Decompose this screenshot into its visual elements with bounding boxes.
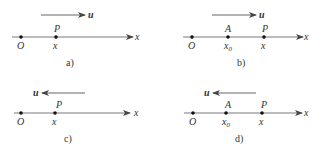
point-p <box>54 35 58 39</box>
panel-caption: d) <box>235 133 243 145</box>
panel-a: u x O P x a) <box>12 9 140 69</box>
origin-label: O <box>188 40 195 51</box>
point-a-coord: x0 <box>221 116 230 129</box>
velocity-label: u <box>204 87 210 98</box>
point-p-label: P <box>55 99 62 110</box>
point-a-label: A <box>224 23 232 34</box>
point-a-label: A <box>224 99 232 110</box>
point-p-label: P <box>261 23 268 34</box>
origin-label: O <box>189 116 196 127</box>
axis-label: x <box>133 107 139 118</box>
point-p-label: P <box>260 99 267 110</box>
velocity-label: u <box>88 9 94 20</box>
point-p-coord: x <box>260 40 266 51</box>
point-p <box>262 35 266 39</box>
origin-point <box>190 35 194 39</box>
axis-label: x <box>303 107 309 118</box>
origin-point <box>19 35 23 39</box>
point-a <box>226 35 230 39</box>
point-p-coord: x <box>52 40 58 51</box>
origin-label: O <box>17 116 24 127</box>
point-p <box>260 111 264 115</box>
velocity-label: u <box>33 87 39 98</box>
point-p-label: P <box>53 23 60 34</box>
panel-b: u x O A x0 P x b) <box>183 9 309 69</box>
point-p <box>53 111 57 115</box>
point-a-coord: x0 <box>223 40 232 53</box>
origin-point <box>191 111 195 115</box>
axis-label: x <box>134 31 140 42</box>
panel-caption: b) <box>237 57 245 69</box>
axis-label: x <box>303 31 309 42</box>
point-a <box>224 111 228 115</box>
panel-d: u x O A x0 P x d) <box>184 87 309 145</box>
panel-caption: a) <box>66 57 74 69</box>
velocity-label: u <box>259 9 265 20</box>
panel-caption: c) <box>64 133 72 145</box>
point-p-coord: x <box>51 116 57 127</box>
origin-point <box>19 111 23 115</box>
origin-label: O <box>17 40 24 51</box>
point-p-coord: x <box>258 116 264 127</box>
diagram-canvas: u x O P x a) u x O A x0 P x b) u x O P x… <box>0 0 318 155</box>
panel-c: u x O P x c) <box>14 87 139 145</box>
